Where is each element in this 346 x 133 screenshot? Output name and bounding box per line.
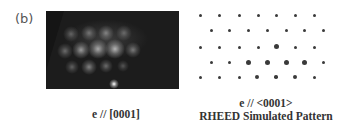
simulated-spot bbox=[285, 29, 288, 32]
simulated-rheed-pattern bbox=[190, 5, 340, 90]
simulated-spot bbox=[303, 29, 306, 32]
diffraction-spot bbox=[125, 42, 141, 58]
simulated-spot bbox=[210, 61, 213, 64]
simulated-spot bbox=[247, 29, 250, 32]
simulated-spot bbox=[199, 76, 202, 79]
experimental-caption: e // [0001] bbox=[66, 108, 166, 120]
simulated-spot bbox=[313, 76, 316, 79]
simulated-spot bbox=[210, 29, 213, 32]
diffraction-spot bbox=[117, 60, 129, 72]
simulated-spot bbox=[228, 29, 231, 32]
simulated-spot bbox=[257, 14, 260, 17]
simulated-spot bbox=[255, 75, 259, 79]
simulated-spot bbox=[274, 75, 278, 79]
simulated-spot bbox=[322, 29, 325, 32]
diffraction-spot bbox=[57, 43, 73, 59]
simulated-spot bbox=[266, 29, 269, 32]
shadow-edge bbox=[46, 11, 64, 71]
simulated-spot bbox=[246, 60, 251, 65]
simulated-spot bbox=[322, 61, 325, 64]
simulated-spot bbox=[294, 46, 297, 49]
simulated-spot bbox=[238, 14, 241, 17]
diffraction-spot bbox=[81, 59, 97, 75]
diffraction-spot bbox=[105, 39, 125, 59]
diffraction-spot bbox=[99, 59, 113, 73]
simulated-spot bbox=[302, 60, 307, 65]
simulated-spot bbox=[218, 14, 221, 17]
simulated-spot bbox=[218, 76, 221, 79]
simulated-spot bbox=[199, 14, 202, 17]
simulated-spot bbox=[275, 14, 278, 17]
diffraction-spot bbox=[65, 60, 79, 74]
diffraction-spot bbox=[63, 26, 79, 42]
experimental-rheed-image bbox=[46, 11, 179, 89]
simulated-spot bbox=[293, 75, 297, 79]
simulated-spot bbox=[274, 44, 279, 49]
diffraction-spot bbox=[109, 79, 119, 89]
simulated-spot bbox=[284, 60, 289, 65]
simulated-spot bbox=[238, 46, 241, 49]
simulated-spot bbox=[199, 46, 202, 49]
simulated-spot bbox=[313, 46, 316, 49]
simulated-spot bbox=[228, 61, 231, 64]
simulated-caption-direction: e // <0001> bbox=[196, 97, 336, 109]
simulated-spot bbox=[294, 14, 297, 17]
simulated-spot bbox=[238, 76, 241, 79]
simulated-spot bbox=[218, 46, 221, 49]
simulated-spot bbox=[265, 60, 270, 65]
simulated-spot bbox=[257, 46, 260, 49]
simulated-spot bbox=[313, 14, 316, 17]
panel-label: (b) bbox=[15, 11, 33, 26]
simulated-caption-title: RHEED Simulated Pattern bbox=[186, 110, 346, 122]
